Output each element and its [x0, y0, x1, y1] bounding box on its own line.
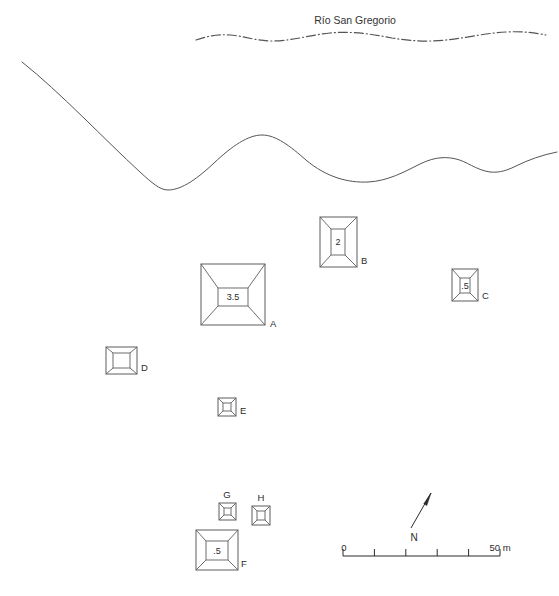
structure-h-summit	[257, 511, 265, 520]
terrain-contour-line	[22, 62, 557, 190]
structure-c-height-value: .5	[461, 281, 469, 291]
structure-e-label: E	[240, 405, 246, 416]
structure-g: G	[219, 489, 236, 520]
structure-h-label: H	[258, 492, 265, 503]
river-group: Río San Gregorio	[196, 14, 546, 41]
structure-a: 3.5A	[201, 264, 277, 329]
north-arrow-head	[424, 493, 431, 506]
structure-e-summit	[223, 403, 231, 411]
north-arrow-label: N	[410, 532, 417, 543]
site-map-figure: Río San Gregorio 3.5A2B.5CDE.5FGH 050 m …	[0, 0, 559, 596]
structures-layer: 3.5A2B.5CDE.5FGH	[106, 217, 489, 570]
structure-b: 2B	[320, 217, 367, 267]
structure-c-label: C	[482, 290, 489, 301]
structure-f-height-value: .5	[213, 546, 221, 556]
river-line	[196, 32, 546, 41]
structure-d-summit	[113, 353, 130, 368]
scale-bar-group: 050 m	[341, 542, 510, 556]
structure-f: .5F	[196, 530, 247, 570]
structure-a-height-value: 3.5	[227, 292, 240, 302]
structure-e: E	[218, 398, 246, 416]
terrain-contour-group	[22, 62, 557, 190]
structure-g-label: G	[223, 489, 230, 500]
structure-d-label: D	[141, 362, 148, 373]
structure-b-height-value: 2	[335, 237, 340, 247]
scale-bar-start-label: 0	[341, 542, 346, 553]
river-title-label: Río San Gregorio	[314, 14, 396, 26]
structure-d: D	[106, 347, 148, 374]
structure-g-summit	[224, 508, 231, 515]
structure-b-label: B	[361, 255, 367, 266]
structure-f-label: F	[241, 558, 247, 569]
structure-a-label: A	[270, 318, 277, 329]
structure-h: H	[252, 492, 270, 525]
structure-c: .5C	[452, 269, 489, 301]
map-canvas: Río San Gregorio 3.5A2B.5CDE.5FGH 050 m …	[0, 0, 559, 596]
scale-bar-end-label: 50 m	[489, 542, 510, 553]
river-title-text: Río San Gregorio	[314, 14, 396, 26]
north-arrow-group: N	[410, 493, 431, 543]
